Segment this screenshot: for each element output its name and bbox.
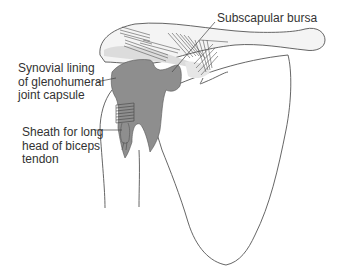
label-line: joint capsule — [18, 89, 104, 103]
label-biceps-sheath: Sheath for long head of biceps tendon — [22, 126, 103, 167]
label-line: head of biceps — [22, 140, 103, 154]
label-text: Subscapular bursa — [217, 12, 317, 26]
biceps-tendon — [121, 123, 130, 143]
label-line: Sheath for long — [22, 126, 103, 140]
label-line: of glenohumeral — [18, 76, 104, 90]
label-subscapular-bursa: Subscapular bursa — [217, 12, 317, 26]
label-line: Synovial lining — [18, 62, 104, 76]
label-synovial-lining: Synovial lining of glenohumeral joint ca… — [18, 62, 104, 103]
synovial-capsule — [111, 60, 181, 159]
label-line: tendon — [22, 153, 103, 167]
